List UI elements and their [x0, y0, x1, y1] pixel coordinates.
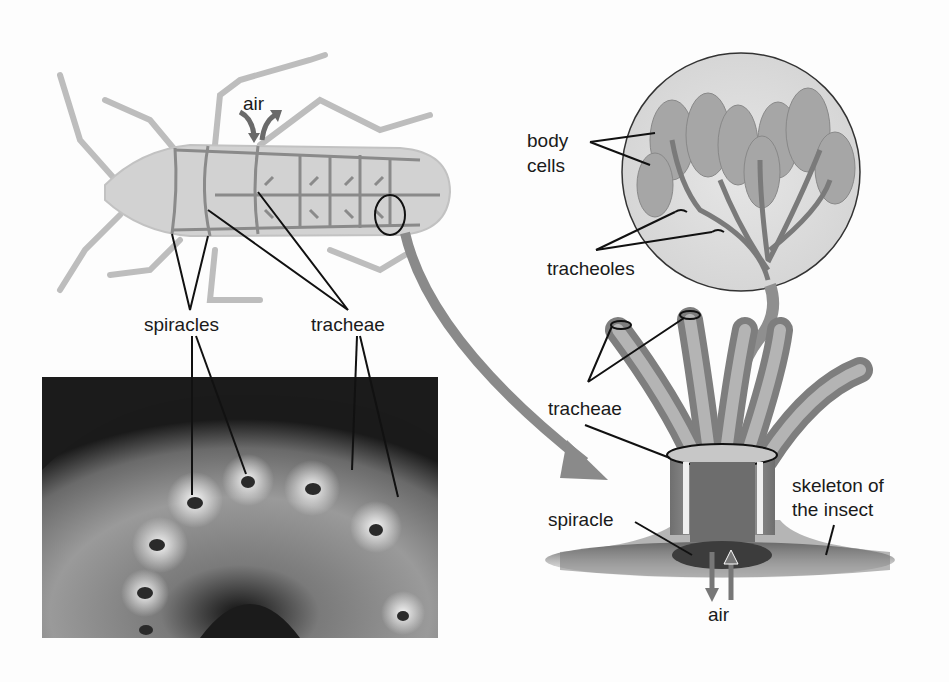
trachea-branches — [618, 320, 860, 460]
label-tracheoles: tracheoles — [547, 258, 635, 280]
label-skeleton-line1: skeleton of — [792, 475, 884, 497]
insect-body — [105, 145, 450, 236]
label-tracheae-right: tracheae — [548, 398, 622, 420]
label-tracheae-left: tracheae — [311, 314, 385, 336]
label-body-cells-line1: body — [527, 130, 568, 152]
label-spiracles: spiracles — [144, 314, 219, 336]
label-spiracle: spiracle — [548, 509, 613, 531]
label-body-cells-line2: cells — [527, 155, 565, 177]
label-air-top: air — [243, 93, 264, 115]
body-cells-circle — [622, 53, 860, 291]
label-air-bottom: air — [708, 604, 729, 626]
label-skeleton-line2: the insect — [792, 499, 873, 521]
diagram-artwork — [0, 0, 949, 682]
